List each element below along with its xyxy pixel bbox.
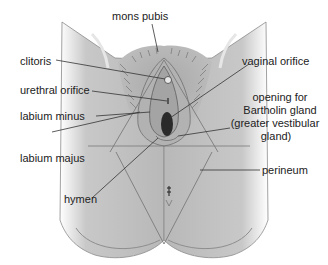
label-perineum: perineum [262,164,308,176]
label-bartholin-1: opening for [240,91,320,103]
label-labium-majus: labium majus [20,152,85,164]
label-clitoris: clitoris [20,55,51,67]
vaginal-orifice-shape [161,112,173,136]
label-bartholin-2: Bartholin gland [232,104,328,116]
label-vaginal-orifice: vaginal orifice [242,55,309,67]
label-urethral-orifice: urethral orifice [20,84,90,96]
label-mons-pubis: mons pubis [112,10,168,22]
label-bartholin-3: (greater vestibular [222,117,328,129]
label-hymen: hymen [64,193,97,205]
label-labium-minus: labium minus [20,110,85,122]
clitoris-shape [165,77,172,84]
label-bartholin-4: gland) [236,130,316,142]
